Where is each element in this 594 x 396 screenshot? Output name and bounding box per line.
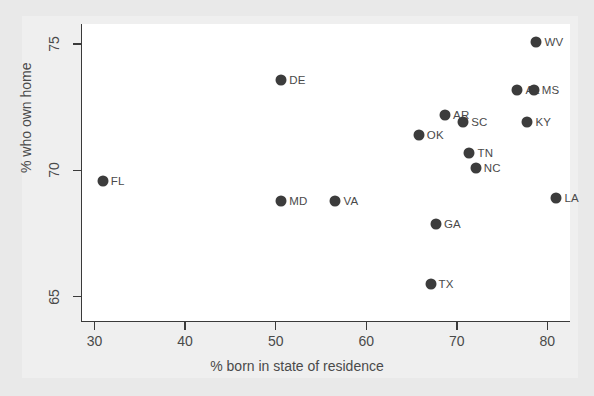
x-tick-label: 80 [540, 333, 556, 349]
data-point-label-ms: MS [542, 84, 560, 96]
scatter-plot-figure: 657075 304050607080 FLDEMDVAOKTXGAARSCTN… [0, 0, 594, 396]
x-tick-mark [456, 322, 458, 330]
y-tick-label: 65 [42, 282, 66, 312]
data-point-label-nc: NC [484, 162, 501, 174]
x-tick-label: 70 [449, 333, 465, 349]
x-tick-label: 60 [358, 333, 374, 349]
data-point-label-fl: FL [111, 175, 125, 187]
x-tick-label: 50 [268, 333, 284, 349]
x-tick-mark [94, 322, 96, 330]
data-point-la [551, 193, 562, 204]
data-point-label-tx: TX [439, 278, 454, 290]
data-point-de [276, 74, 287, 85]
x-tick-mark [184, 322, 186, 330]
x-tick-label: 40 [177, 333, 193, 349]
data-point-label-ky: KY [535, 116, 551, 128]
data-point-ms [528, 84, 539, 95]
data-point-md [276, 195, 287, 206]
data-point-al [512, 84, 523, 95]
data-point-label-wv: WV [544, 36, 563, 48]
y-tick-mark [73, 43, 81, 45]
data-point-ga [430, 218, 441, 229]
data-point-label-md: MD [289, 195, 307, 207]
y-tick-label: 75 [42, 29, 66, 59]
data-point-tx [425, 279, 436, 290]
data-point-sc [458, 117, 469, 128]
data-point-label-la: LA [564, 192, 578, 204]
y-tick-label: 70 [42, 155, 66, 185]
y-tick-mark [73, 170, 81, 172]
data-point-tn [464, 147, 475, 158]
x-tick-mark [547, 322, 549, 330]
data-point-label-ok: OK [427, 129, 444, 141]
data-point-ok [413, 130, 424, 141]
x-tick-mark [366, 322, 368, 330]
data-point-label-sc: SC [471, 116, 487, 128]
data-point-wv [531, 36, 542, 47]
x-tick-label: 30 [87, 333, 103, 349]
x-tick-mark [275, 322, 277, 330]
y-axis-title: % who own home [18, 62, 34, 173]
data-point-label-ga: GA [444, 218, 461, 230]
data-point-ky [522, 117, 533, 128]
data-point-label-tn: TN [477, 147, 493, 159]
data-point-ar [440, 109, 451, 120]
data-point-label-va: VA [343, 195, 358, 207]
data-point-label-de: DE [289, 74, 305, 86]
data-point-va [330, 195, 341, 206]
data-point-nc [470, 162, 481, 173]
data-point-fl [97, 175, 108, 186]
y-tick-mark [73, 296, 81, 298]
x-axis-title: % born in state of residence [0, 358, 594, 374]
